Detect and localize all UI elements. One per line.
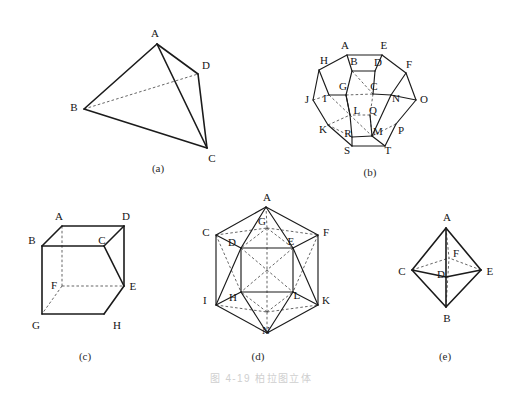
cube-edge-AB	[42, 226, 62, 246]
icosahedron-vertex-label-D: D	[228, 237, 236, 248]
dodecahedron-hidden-edge-GC	[346, 94, 373, 95]
tetrahedron-edge-BC	[84, 109, 207, 148]
icosahedron-vertex-label-N: N	[262, 325, 270, 336]
figure-caption: 图 4-19 柏拉图立体	[0, 370, 522, 385]
dodecahedron-vertex-label-B: B	[350, 56, 357, 67]
dodecahedron-vertex-label-K: K	[319, 124, 327, 135]
octahedron-vertex-label-F: F	[453, 248, 459, 259]
icosahedron-hidden-edge-GA	[266, 207, 267, 228]
tetrahedron-edge-AD	[157, 44, 198, 74]
dodecahedron-edge-JK	[313, 100, 328, 125]
platonic-solids-figure: ABCDABCDEFGHIJKLMNOPQRSTABCDEFGHACDEFGHI…	[0, 0, 522, 402]
dodecahedron-edge-MT	[372, 136, 385, 146]
icosahedron-vertex-label-I: I	[203, 295, 207, 306]
icosahedron-vertex-label-L: L	[294, 290, 301, 301]
icosahedron-vertex-label-K: K	[322, 295, 330, 306]
dodecahedron-vertex-label-O: O	[420, 94, 428, 105]
cube-vertex-label-G: G	[32, 320, 40, 331]
icosahedron-edge-AD	[241, 207, 266, 248]
icosahedron-vertex-label-G: G	[258, 216, 266, 227]
dodecahedron-vertex-label-S: S	[344, 145, 350, 156]
dodecahedron-vertex-label-L: L	[354, 105, 361, 116]
hidden-edges-group	[42, 71, 481, 333]
icosahedron-vertex-label-H: H	[229, 292, 237, 303]
icosahedron-vertex-label-F: F	[323, 227, 329, 238]
cube-edge-DC	[104, 226, 124, 246]
dodecahedron-vertex-label-R: R	[344, 128, 351, 139]
tetrahedron-hidden-edge-BD	[84, 74, 198, 109]
dodecahedron-vertex-label-Q: Q	[369, 105, 377, 116]
dodecahedron-vertex-label-D: D	[374, 57, 382, 68]
octahedron-vertex-label-B: B	[443, 313, 450, 324]
cube-vertex-label-B: B	[28, 235, 35, 246]
visible-edges-group	[42, 44, 481, 333]
octahedron-edge-AE	[446, 228, 481, 270]
icosahedron-hidden-edge-FL	[293, 235, 318, 292]
dodecahedron-edge-HJ	[313, 70, 319, 100]
subfigure-label-c: (c)	[79, 350, 91, 362]
tetrahedron-vertex-label-D: D	[202, 60, 210, 71]
tetrahedron-edge-AB	[84, 44, 157, 109]
tetrahedron-vertex-label-C: C	[208, 153, 215, 164]
dodecahedron-vertex-label-I: I	[323, 93, 327, 104]
tetrahedron-vertex-label-B: B	[70, 102, 77, 113]
dodecahedron-edge-EF	[382, 55, 406, 73]
cube-vertex-label-E: E	[130, 281, 137, 292]
dodecahedron-edge-OP	[396, 100, 416, 124]
dodecahedron-vertex-label-N: N	[392, 93, 400, 104]
dodecahedron-vertex-label-J: J	[305, 94, 309, 105]
dodecahedron-vertex-label-A: A	[341, 40, 349, 51]
octahedron-vertex-label-D: D	[437, 269, 445, 280]
dodecahedron-hidden-edge-LM	[350, 115, 372, 136]
octahedron-edge-AC	[412, 228, 446, 270]
dodecahedron-edge-NC	[373, 94, 391, 95]
icosahedron-vertex-label-A: A	[263, 192, 271, 203]
dodecahedron-vertex-label-F: F	[406, 59, 412, 70]
cube-vertex-label-H: H	[113, 320, 121, 331]
cube-vertex-label-C: C	[98, 235, 105, 246]
subfigure-label-e: (e)	[439, 350, 451, 362]
octahedron-vertex-label-A: A	[443, 212, 451, 223]
dodecahedron-vertex-label-M: M	[373, 126, 383, 137]
icosahedron-edge-FA	[266, 207, 318, 235]
icosahedron-hidden-edge-ML	[267, 292, 293, 312]
dodecahedron-vertex-label-C: C	[370, 81, 377, 92]
dodecahedron-hidden-edge-KL	[328, 115, 350, 125]
subfigure-label-a: (a)	[152, 162, 164, 174]
cube-edge-EH	[104, 286, 124, 314]
dodecahedron-vertex-label-P: P	[398, 125, 404, 136]
icosahedron-edge-IN	[216, 305, 267, 333]
icosahedron-vertex-label-C: C	[202, 227, 209, 238]
icosahedron-vertex-label-E: E	[288, 236, 295, 247]
dodecahedron-edge-MQ	[370, 115, 372, 136]
icosahedron-edge-LN	[267, 292, 293, 333]
octahedron-vertex-label-C: C	[398, 266, 405, 277]
icosahedron-edge-NK	[267, 305, 318, 333]
dodecahedron-vertex-label-T: T	[385, 145, 392, 156]
tetrahedron-edge-AC	[157, 44, 207, 148]
cube-vertex-label-F: F	[51, 280, 57, 291]
octahedron-vertex-label-E: E	[487, 266, 494, 277]
cube-edge-CE	[104, 246, 124, 286]
dodecahedron-vertex-label-E: E	[381, 40, 388, 51]
dodecahedron-edge-RM	[352, 136, 372, 137]
tetrahedron-vertex-label-A: A	[151, 28, 159, 39]
subfigure-label-d: (d)	[252, 350, 265, 362]
subfigure-label-b: (b)	[364, 166, 377, 178]
icosahedron-edge-FE	[293, 235, 318, 248]
dodecahedron-edge-FO	[406, 73, 416, 100]
cube-vertex-label-A: A	[55, 211, 63, 222]
cube-vertex-label-D: D	[122, 211, 130, 222]
dodecahedron-vertex-label-H: H	[320, 55, 328, 66]
dodecahedron-vertex-label-G: G	[339, 81, 347, 92]
solids-line-art	[0, 0, 522, 402]
